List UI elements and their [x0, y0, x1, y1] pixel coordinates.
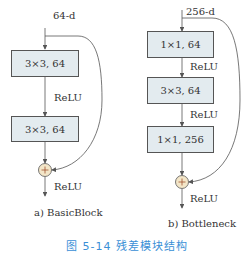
basic-input-label: 64-d — [53, 10, 76, 22]
bottleneck-layer-2: 3×3, 64 — [147, 77, 214, 104]
basic-block-caption: a) BasicBlock — [34, 207, 103, 218]
bottleneck-layer-3: 1×1, 256 — [147, 126, 214, 153]
basic-layer-1: 3×3, 64 — [11, 50, 79, 77]
bottleneck-caption: b) Bottleneck — [168, 218, 236, 229]
basic-layer-2: 3×3, 64 — [11, 116, 79, 142]
bottleneck-layer-1: 1×1, 64 — [147, 31, 214, 58]
basic-relu-2: ReLU — [54, 181, 82, 193]
figure-caption: 图 5-14 残差模块结构 — [66, 237, 188, 253]
basic-relu-1: ReLU — [54, 92, 82, 104]
bottleneck-relu-1: ReLU — [190, 61, 218, 73]
bottleneck-input-label: 256-d — [186, 6, 215, 18]
bottleneck-relu-2: ReLU — [190, 109, 218, 121]
bottleneck-relu-3: ReLU — [190, 193, 218, 205]
